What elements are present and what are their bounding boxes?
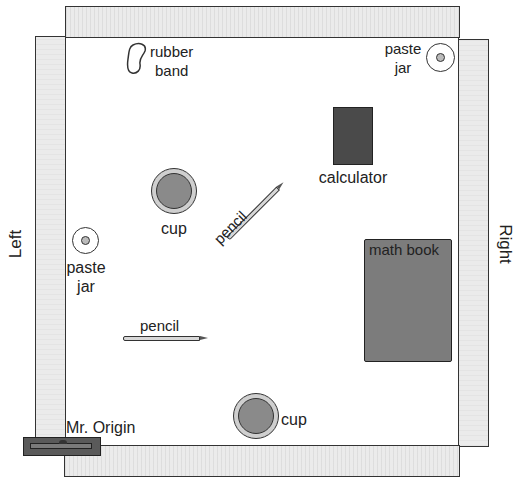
paste-jar-top-label-line1: paste	[383, 40, 423, 58]
pencil-horizontal-label: pencil	[140, 317, 179, 335]
origin-label: Mr. Origin	[66, 419, 135, 437]
origin-block	[23, 437, 101, 456]
cup-lower-icon	[233, 393, 279, 439]
right-ruler-strip	[458, 39, 489, 447]
top-ruler-strip	[65, 6, 460, 38]
calculator-shape	[333, 107, 373, 165]
left-ruler-strip	[35, 36, 66, 441]
right-side-label: Right	[495, 224, 515, 264]
paste-jar-left-icon	[72, 227, 99, 254]
calculator-label: calculator	[308, 169, 398, 187]
origin-block-notch	[59, 440, 67, 444]
paste-jar-icon	[426, 43, 455, 72]
left-side-label: Left	[6, 224, 26, 264]
cup-upper-icon	[151, 168, 197, 214]
rubber-band-label-line2: band	[155, 62, 188, 80]
pencil-horizontal-icon	[123, 336, 200, 341]
rubber-band-icon	[125, 42, 149, 76]
rubber-band-label-line1: rubber	[150, 43, 193, 61]
paste-jar-left-label-line1: paste	[66, 259, 106, 277]
cup-upper-label: cup	[154, 220, 194, 238]
bottom-ruler-strip	[64, 445, 460, 477]
cup-lower-label: cup	[281, 411, 307, 429]
paste-jar-left-label-line2: jar	[66, 278, 106, 296]
math-book-label: math book	[369, 241, 439, 259]
paste-jar-top-label-line2: jar	[383, 59, 423, 77]
